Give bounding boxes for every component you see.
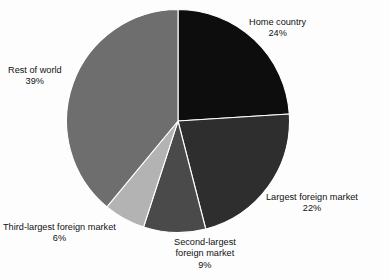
- slice-label-rest-of-world-text: Rest of world: [8, 65, 62, 76]
- slice-label-third-largest-foreign-market: Third-largest foreign market 6%: [3, 222, 116, 245]
- slice-label-rest-of-world-percent: 39%: [8, 76, 62, 87]
- slice-label-largest-foreign-market-text: Largest foreign market: [266, 192, 358, 203]
- slice-label-rest-of-world: Rest of world 39%: [8, 65, 62, 88]
- slice-label-second-largest-foreign-market-text-line2: foreign market: [174, 248, 236, 259]
- pie-chart-svg: Home country 24%Largest foreign market 2…: [66, 9, 290, 233]
- slice-label-second-largest-foreign-market-text-line1: Second-largest: [174, 237, 236, 248]
- pie-chart-screenshot: Home country 24%Largest foreign market 2…: [0, 0, 390, 279]
- slice-label-home-country-percent: 24%: [249, 28, 306, 39]
- pie-chart: Home country 24%Largest foreign market 2…: [66, 9, 290, 233]
- slice-label-largest-foreign-market-percent: 22%: [266, 203, 358, 214]
- slice-label-third-largest-foreign-market-percent: 6%: [3, 233, 116, 244]
- slice-label-second-largest-foreign-market-percent: 9%: [174, 260, 236, 271]
- slice-label-home-country: Home country 24%: [249, 17, 306, 40]
- slice-label-second-largest-foreign-market: Second-largest foreign market 9%: [174, 237, 236, 271]
- slice-label-third-largest-foreign-market-text: Third-largest foreign market: [3, 222, 116, 233]
- slice-label-largest-foreign-market: Largest foreign market 22%: [266, 192, 358, 215]
- slice-label-home-country-text: Home country: [249, 17, 306, 28]
